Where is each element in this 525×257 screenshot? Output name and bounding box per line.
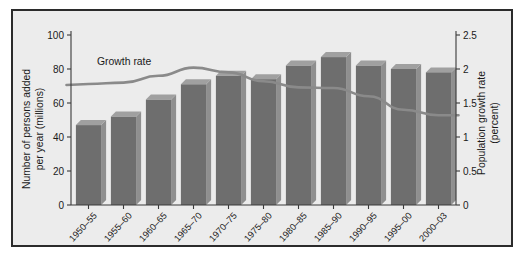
x-axis-tick-label: 1995–00: [382, 211, 414, 244]
x-axis-tick-label: 1955–60: [102, 211, 134, 244]
y-axis-tick-label: 60: [53, 98, 65, 109]
x-axis-tick-label: 1965–70: [172, 211, 204, 244]
x-axis-tick-label: 1960–65: [137, 211, 169, 244]
y-axis-tick-label: 20: [53, 166, 65, 177]
bars-group: [76, 52, 456, 205]
y2-axis-tick-label: 2.5: [463, 30, 477, 41]
bar: [426, 67, 456, 205]
x-axis-tick-label: 1950–55: [67, 211, 99, 244]
population-growth-combo-chart: 020406080100 00.511.522.5 1950–551955–60…: [13, 11, 511, 245]
y-axis-tick-label: 100: [47, 30, 64, 41]
bar: [321, 52, 351, 205]
right-axis-title-line2: (percent): [489, 102, 500, 144]
y-axis-tick-label: 0: [58, 200, 64, 211]
y-axis-tick-label: 80: [53, 64, 65, 75]
bar: [391, 64, 421, 205]
chart-figure-frame: 020406080100 00.511.522.5 1950–551955–60…: [11, 9, 513, 247]
left-axis-title-line2: per year (millions): [34, 88, 45, 171]
right-axis: 00.511.522.5: [456, 30, 477, 211]
x-axis-tick-label: 1980–85: [277, 211, 309, 244]
bar: [146, 95, 176, 205]
y-axis-tick-label: 40: [53, 132, 65, 143]
bar: [111, 112, 141, 205]
bar: [76, 120, 106, 205]
left-axis: 020406080100: [47, 30, 71, 211]
bar: [181, 79, 211, 205]
bar: [216, 71, 246, 205]
left-axis-title-line1: Number of persons added: [21, 69, 32, 189]
x-axis-tick-label: 1975–80: [242, 211, 274, 244]
x-axis-tick-label: 1985–90: [312, 211, 344, 244]
bar: [356, 61, 386, 205]
chart-plot-area: 020406080100 00.511.522.5 1950–551955–60…: [13, 11, 511, 245]
growth-rate-annotation: Growth rate: [97, 56, 152, 67]
y2-axis-tick-label: 0: [463, 200, 469, 211]
x-axis-tick-label: 2000–03: [417, 211, 449, 244]
bar: [251, 74, 281, 205]
x-axis-tick-label: 1970–75: [207, 211, 239, 244]
y2-axis-tick-label: 2: [463, 64, 469, 75]
right-axis-title-line1: Population growth rate: [476, 71, 487, 175]
x-axis-tick-label: 1990–95: [347, 211, 379, 244]
y2-axis-tick-label: 1: [463, 132, 469, 143]
x-axis: 1950–551955–601960–651965–701970–751975–…: [67, 205, 456, 244]
bar: [286, 61, 316, 205]
